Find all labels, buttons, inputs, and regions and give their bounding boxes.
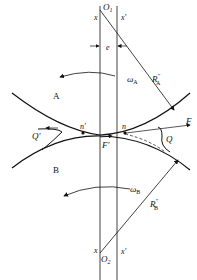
label-omega-A: ωA [127, 74, 138, 85]
label-body-B: B [53, 165, 59, 175]
omega-B-arrow [64, 187, 130, 196]
point-n-prime [81, 131, 84, 134]
label-n-prime: n' [80, 122, 86, 131]
label-O2: O2 [101, 254, 111, 265]
contact-diagram: O1 x x' e ωA R"A A B n' n Q' Q F F' ωB R… [0, 0, 197, 280]
label-e: e [106, 43, 110, 52]
omega-A-arrow [60, 72, 115, 77]
flank-Q-prime [38, 129, 62, 150]
label-x-prime-bottom: x' [120, 247, 127, 256]
label-Q-prime: Q' [32, 131, 41, 141]
force-F-arrow [126, 125, 190, 133]
label-RA: R"A [151, 73, 161, 86]
radius-RB-line [100, 160, 178, 253]
label-x-prime-top: x' [120, 13, 127, 22]
label-F: F [185, 116, 192, 126]
label-RB: R"B [149, 198, 159, 211]
label-omega-B: ωB [130, 184, 140, 195]
label-x-top: x [93, 13, 98, 22]
label-F-prime: F' [101, 140, 110, 150]
body-B-profile [12, 136, 190, 170]
label-x-bottom: x [93, 246, 98, 255]
label-Q: Q [166, 134, 173, 144]
label-body-A: A [53, 91, 60, 101]
radius-RA-line [100, 10, 174, 110]
label-n: n [122, 122, 126, 131]
label-O1: O1 [103, 2, 113, 13]
